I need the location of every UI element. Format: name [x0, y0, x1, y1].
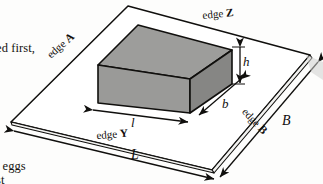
edge-z-letter: Z — [225, 6, 234, 19]
body-text-fragment-lower-2: st — [0, 174, 5, 184]
plate-edge-label-y: edge Y — [96, 128, 129, 142]
edge-y-letter: Y — [119, 127, 128, 140]
body-text-fragment-upper: ed first, — [0, 42, 35, 55]
body-text-fragment-lower-1: r eggs — [0, 160, 26, 173]
diagram-canvas — [0, 0, 323, 184]
block-height-symbol: h — [243, 55, 250, 68]
edge-z-prefix: edge — [202, 7, 227, 21]
edge-y-prefix: edge — [96, 127, 120, 141]
plate-length-symbol: L — [131, 148, 139, 162]
block-length-symbol: l — [131, 116, 135, 129]
block-breadth-symbol: b — [222, 97, 229, 110]
box-on-plate-diagram: ed first, r eggs st edge A edge Z edge B… — [0, 0, 323, 184]
scan-artifact — [306, 55, 323, 80]
plate-breadth-symbol: B — [282, 114, 291, 128]
